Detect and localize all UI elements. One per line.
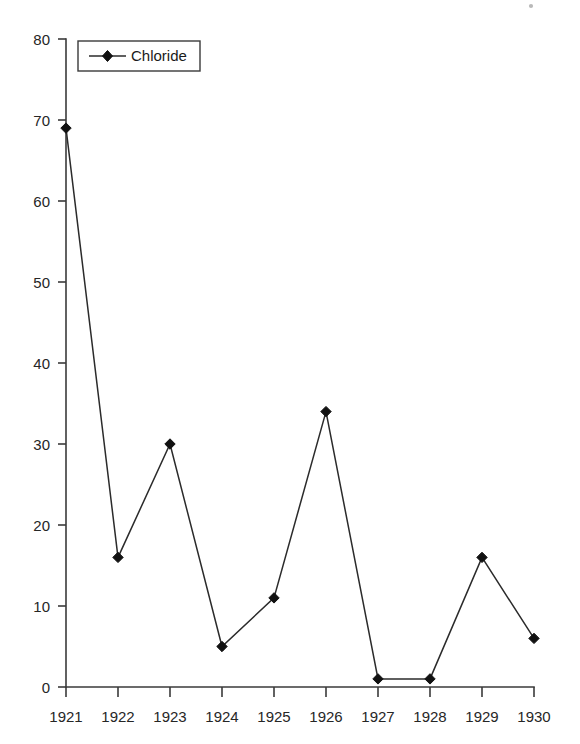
series-markers-chloride [61,123,539,684]
line-chart: 0 10 20 30 40 50 60 70 80 1921 1922 [0,0,580,744]
data-point-marker [529,633,539,643]
legend-label-chloride: Chloride [131,47,187,64]
series-line-chloride [66,128,534,679]
x-tick-label-1924: 1924 [205,708,238,725]
data-point-marker [425,674,435,684]
y-tick-label-10: 10 [33,598,50,615]
x-tick-label-1926: 1926 [309,708,342,725]
legend: Chloride [78,41,200,71]
chart-container: 0 10 20 30 40 50 60 70 80 1921 1922 [0,0,580,744]
y-tick-label-70: 70 [33,112,50,129]
y-tick-label-0: 0 [42,679,50,696]
x-tick-label-1928: 1928 [413,708,446,725]
data-point-marker [113,552,123,562]
data-point-marker [477,552,487,562]
y-tick-label-40: 40 [33,355,50,372]
x-tick-label-1922: 1922 [101,708,134,725]
x-tick-label-1925: 1925 [257,708,290,725]
y-tick-marks [58,39,66,687]
y-axis-labels: 0 10 20 30 40 50 60 70 80 [33,31,50,696]
scan-speck [529,4,533,8]
x-tick-label-1930: 1930 [517,708,550,725]
data-point-marker [373,674,383,684]
y-tick-label-20: 20 [33,517,50,534]
x-tick-label-1921: 1921 [49,708,82,725]
x-tick-marks [66,687,534,697]
x-tick-label-1929: 1929 [465,708,498,725]
x-axis-labels: 1921 1922 1923 1924 1925 1926 1927 1928 … [49,708,550,725]
y-tick-label-50: 50 [33,274,50,291]
y-tick-label-80: 80 [33,31,50,48]
x-tick-label-1923: 1923 [153,708,186,725]
data-point-marker [61,123,71,133]
x-tick-label-1927: 1927 [361,708,394,725]
y-tick-label-60: 60 [33,193,50,210]
data-point-marker [321,406,331,416]
data-point-marker [165,439,175,449]
y-tick-label-30: 30 [33,436,50,453]
